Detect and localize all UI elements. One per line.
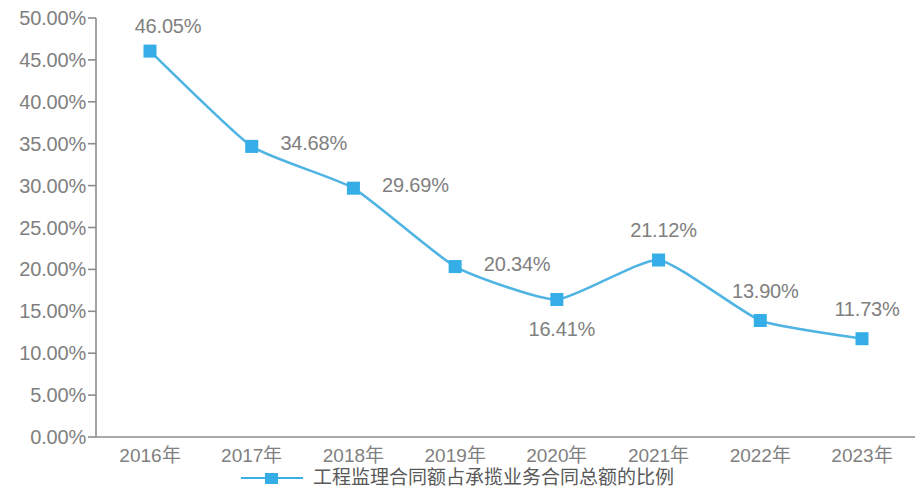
data-point-label: 46.05% [135,16,202,36]
data-point-label: 34.68% [280,133,347,153]
data-point-label: 16.41% [529,319,596,339]
legend-square-icon [265,473,278,484]
chart-legend: 工程监理合同额占承揽业务合同总额的比例 [0,464,915,492]
data-point-label: 13.90% [732,281,799,301]
legend-label: 工程监理合同额占承揽业务合同总额的比例 [313,467,674,489]
data-point-label: 29.69% [382,175,449,195]
data-point-label: 21.12% [630,220,697,240]
legend-marker-icon [241,471,303,485]
data-point-label: 11.73% [834,299,899,319]
line-chart: 50.00%45.00%40.00%35.00%30.00%25.00%20.0… [0,0,915,492]
data-point-label: 20.34% [484,254,551,274]
data-point-labels: 46.05%34.68%29.69%20.34%16.41%21.12%13.9… [0,0,915,492]
